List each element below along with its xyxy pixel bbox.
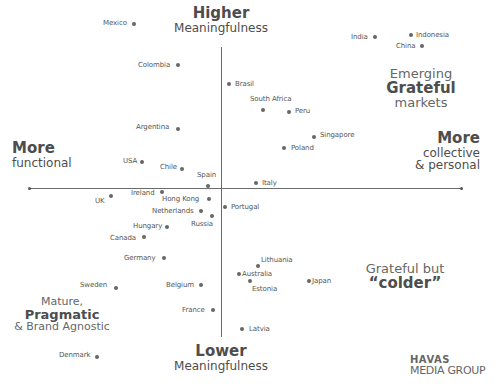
point-usa bbox=[140, 160, 144, 164]
point-sweden bbox=[114, 286, 118, 290]
x-axis-left-end bbox=[28, 187, 31, 190]
axis-label-right-sub2: & personal bbox=[400, 159, 480, 172]
point-ireland bbox=[160, 190, 164, 194]
label-netherlands: Netherlands bbox=[152, 207, 194, 215]
x-axis bbox=[29, 188, 462, 189]
axis-label-top: Higher Meaningfulness bbox=[166, 6, 276, 34]
label-uk: UK bbox=[95, 197, 105, 205]
axis-label-right-bold: More bbox=[400, 131, 480, 147]
point-germany bbox=[162, 256, 166, 260]
point-argentina bbox=[176, 127, 180, 131]
axis-label-bottom-bold: Lower bbox=[166, 344, 276, 360]
axis-label-top-bold: Higher bbox=[166, 6, 276, 22]
label-mexico: Mexico bbox=[103, 19, 127, 27]
quadrant-bl-line2: Pragmatic bbox=[12, 308, 112, 322]
point-spain bbox=[206, 184, 210, 188]
axis-label-bottom-sub: Meaningfulness bbox=[166, 360, 276, 373]
label-argentina: Argentina bbox=[136, 123, 169, 131]
point-estonia bbox=[248, 279, 252, 283]
point-hungary bbox=[165, 225, 169, 229]
label-latvia: Latvia bbox=[249, 325, 270, 333]
axis-label-bottom: Lower Meaningfulness bbox=[166, 344, 276, 372]
label-portugal: Portugal bbox=[231, 203, 259, 211]
axis-label-top-sub: Meaningfulness bbox=[166, 22, 276, 35]
point-indonesia bbox=[409, 33, 413, 37]
label-france: France bbox=[182, 306, 205, 314]
label-spain: Spain bbox=[197, 171, 216, 179]
label-lithuania: Lithuania bbox=[261, 256, 293, 264]
axis-label-left-sub: functional bbox=[12, 157, 72, 170]
point-australia bbox=[237, 272, 241, 276]
label-chile: Chile bbox=[160, 163, 177, 171]
y-axis bbox=[221, 47, 222, 337]
point-netherlands bbox=[199, 209, 203, 213]
point-china bbox=[420, 44, 424, 48]
quadrant-bl-line3: & Brand Agnostic bbox=[12, 321, 112, 333]
point-italy bbox=[254, 181, 258, 185]
axis-label-left-bold: More bbox=[12, 141, 72, 157]
quadrant-bl-line1: Mature, bbox=[12, 296, 112, 308]
havas-media-group-logo: HAVAS MEDIA GROUP bbox=[410, 355, 485, 376]
label-indonesia: Indonesia bbox=[416, 31, 449, 39]
point-chile bbox=[180, 167, 184, 171]
point-denmark bbox=[95, 355, 99, 359]
label-china: China bbox=[396, 42, 416, 50]
label-singapore: Singapore bbox=[320, 131, 354, 139]
label-japan: Japan bbox=[312, 277, 331, 285]
label-italy: Italy bbox=[262, 179, 277, 187]
logo-line2: MEDIA GROUP bbox=[410, 365, 485, 376]
label-india: India bbox=[351, 33, 368, 41]
point-belgium bbox=[199, 283, 203, 287]
label-hong-kong: Hong Kong bbox=[162, 195, 199, 203]
point-canada bbox=[142, 235, 146, 239]
point-colombia bbox=[176, 63, 180, 67]
quadrant-tr-line3: markets bbox=[380, 96, 462, 110]
point-south-africa bbox=[261, 108, 265, 112]
label-estonia: Estonia bbox=[252, 285, 277, 293]
point-hong-kong bbox=[207, 197, 211, 201]
point-poland bbox=[282, 146, 286, 150]
point-india bbox=[373, 35, 377, 39]
point-france bbox=[211, 308, 215, 312]
point-brasil bbox=[227, 82, 231, 86]
point-portugal bbox=[223, 205, 227, 209]
label-sweden: Sweden bbox=[80, 281, 107, 289]
point-mexico bbox=[132, 22, 136, 26]
label-denmark: Denmark bbox=[59, 351, 90, 359]
x-axis-right-end bbox=[460, 187, 463, 190]
quadrant-tr-line2: Grateful bbox=[380, 81, 462, 97]
label-germany: Germany bbox=[124, 254, 155, 262]
label-brasil: Brasil bbox=[235, 80, 254, 88]
point-russia bbox=[210, 214, 214, 218]
label-usa: USA bbox=[123, 157, 137, 165]
point-lithuania bbox=[256, 264, 260, 268]
label-belgium: Belgium bbox=[166, 281, 194, 289]
label-russia: Russia bbox=[191, 220, 213, 228]
label-hungary: Hungary bbox=[133, 222, 162, 230]
label-poland: Poland bbox=[291, 144, 314, 152]
label-australia: Australia bbox=[242, 270, 272, 278]
label-ireland: Ireland bbox=[131, 189, 155, 197]
point-latvia bbox=[240, 327, 244, 331]
label-south-africa: South Africa bbox=[250, 95, 291, 103]
label-colombia: Colombia bbox=[138, 61, 170, 69]
axis-label-left: More functional bbox=[12, 141, 72, 169]
point-singapore bbox=[312, 135, 316, 139]
quadrant-bottom-right-label: Grateful but “colder” bbox=[355, 262, 455, 291]
axis-label-right: More collective & personal bbox=[400, 131, 480, 172]
quadrant-br-line2: “colder” bbox=[355, 276, 455, 292]
label-peru: Peru bbox=[295, 107, 310, 115]
quadrant-bottom-left-label: Mature, Pragmatic & Brand Agnostic bbox=[12, 296, 112, 333]
point-japan bbox=[307, 279, 311, 283]
quadrant-top-right-label: Emerging Grateful markets bbox=[380, 67, 462, 110]
point-uk bbox=[109, 194, 113, 198]
point-peru bbox=[287, 110, 291, 114]
label-canada: Canada bbox=[110, 234, 136, 242]
